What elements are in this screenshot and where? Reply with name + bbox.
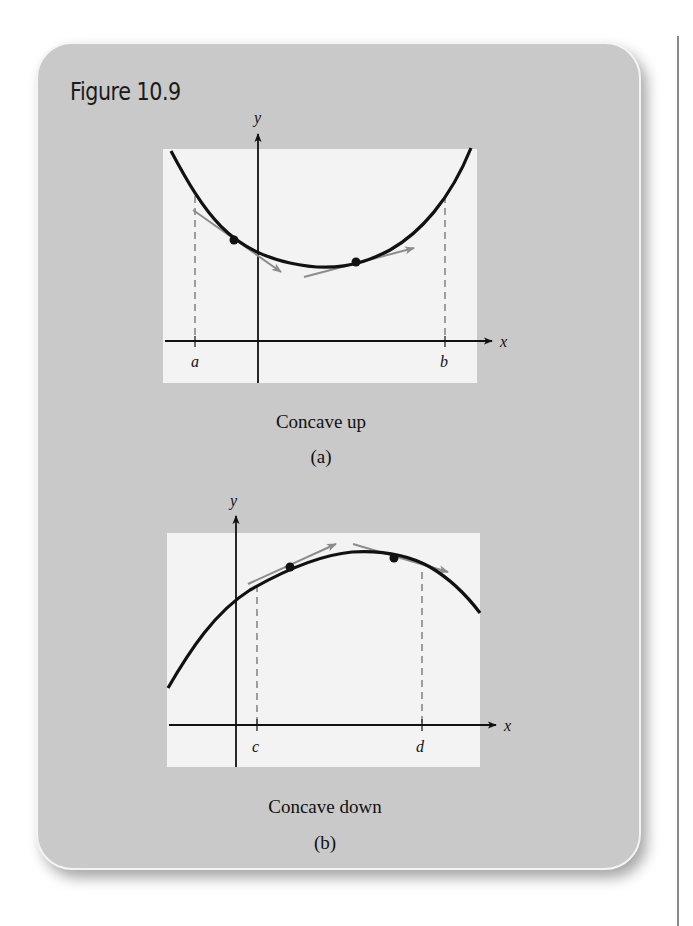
point-a-2 xyxy=(352,258,361,267)
tick-label-c: c xyxy=(252,738,259,755)
tick-label-a: a xyxy=(191,353,199,370)
point-b-1 xyxy=(286,563,295,572)
point-b-2 xyxy=(390,554,399,563)
sublabel-b: (b) xyxy=(175,832,475,854)
x-label-b: x xyxy=(503,717,511,734)
tick-label-b: b xyxy=(440,353,448,370)
sublabel-a: (a) xyxy=(171,446,471,468)
y-label-a: y xyxy=(252,109,262,127)
tick-label-d: d xyxy=(416,738,425,755)
caption-b: Concave down xyxy=(175,796,475,818)
point-a-1 xyxy=(230,236,239,245)
caption-a: Concave up xyxy=(171,411,471,433)
x-label-a: x xyxy=(499,333,507,350)
y-label-b: y xyxy=(228,492,238,510)
